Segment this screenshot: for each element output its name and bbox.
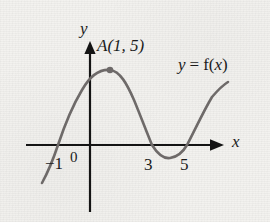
function-label-paren-close: ) [222, 55, 228, 74]
function-label-y: y [178, 55, 186, 74]
x-tick-label-five: 5 [180, 156, 189, 173]
x-axis-label: x [232, 133, 240, 150]
function-graph-figure: y x A(1, 5) y=f(x) −1 0 3 5 [0, 0, 270, 222]
point-a-marker [107, 67, 114, 74]
function-label-equals: = [190, 55, 200, 74]
function-curve [42, 70, 228, 183]
y-axis-arrowhead-icon [84, 41, 95, 54]
point-a-label: A(1, 5) [97, 37, 144, 54]
origin-label-zero: 0 [70, 150, 78, 165]
function-label-x: x [214, 55, 222, 74]
x-axis-arrowhead-icon [210, 139, 224, 151]
y-axis-label: y [80, 20, 88, 37]
x-tick-label-three: 3 [144, 156, 153, 173]
x-tick-label-neg-one: −1 [45, 155, 63, 172]
y-axis [84, 41, 95, 212]
function-equation-label: y=f(x) [178, 56, 228, 73]
graph-canvas [0, 0, 270, 222]
